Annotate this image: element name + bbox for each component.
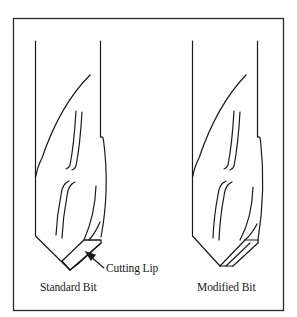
cutting-lip-label: Cutting Lip xyxy=(106,262,158,274)
standard-bit-body-right xyxy=(101,137,107,237)
standard-bit-lip-edge xyxy=(70,243,101,270)
modified-bit-tip-left xyxy=(193,236,221,266)
modified-bit-lip-stripe-1 xyxy=(220,240,245,266)
modified-bit-spiral-outer xyxy=(193,75,246,176)
standard-bit-flute-right-1 xyxy=(84,186,96,240)
standard-bit-spiral-outer xyxy=(36,75,90,176)
modified-bit-label: Modified Bit xyxy=(197,281,256,293)
modified-bit-flute-right-1 xyxy=(240,187,253,240)
cutting-lip-arrow xyxy=(86,252,104,268)
standard-bit-drawing xyxy=(36,41,107,270)
modified-bit-flute-upper-1 xyxy=(224,111,234,169)
standard-bit-label: Standard Bit xyxy=(40,281,97,293)
modified-bit-lip-stripe-3 xyxy=(233,243,258,266)
standard-bit-flute-lower-2 xyxy=(62,182,75,238)
modified-bit-body-right xyxy=(258,137,263,240)
standard-bit-flute-upper-1 xyxy=(66,111,76,169)
modified-bit-flute-right-2 xyxy=(245,224,257,240)
drill-bit-comparison-figure: Cutting Lip Standard Bit Modified Bit xyxy=(0,0,297,317)
standard-bit-flute-right-2 xyxy=(89,222,100,240)
modified-bit-drawing xyxy=(193,41,263,266)
modified-bit-flute-lower-2 xyxy=(219,182,232,240)
